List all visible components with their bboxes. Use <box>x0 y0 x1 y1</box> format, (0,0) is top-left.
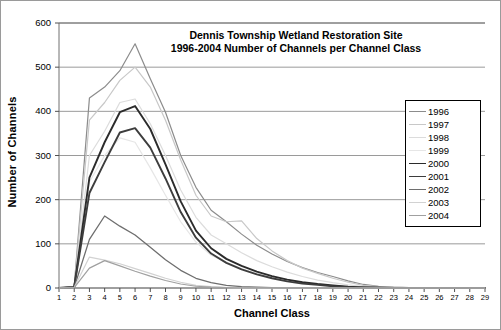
chart-container: Number of Channels Dennis Township Wetla… <box>0 0 501 330</box>
legend-label: 1999 <box>428 144 449 157</box>
legend-label: 1998 <box>428 131 449 144</box>
y-tick-label: 200 <box>17 194 51 205</box>
legend-label: 2003 <box>428 196 449 209</box>
y-tick-label: 300 <box>17 150 51 161</box>
legend-swatch-icon <box>409 202 426 203</box>
legend-item-2004[interactable]: 2004 <box>409 209 477 222</box>
legend-label: 2002 <box>428 183 449 196</box>
y-tick-label: 0 <box>17 282 51 293</box>
series-line-2003 <box>59 257 485 288</box>
legend-swatch-icon <box>409 111 426 112</box>
legend-swatch-icon <box>409 215 426 216</box>
legend-swatch-icon <box>409 150 426 151</box>
legend: 199619971998199920002001200220032004 <box>405 100 481 227</box>
y-tick-label: 600 <box>17 17 51 28</box>
legend-label: 1996 <box>428 105 449 118</box>
legend-item-1999[interactable]: 1999 <box>409 144 477 157</box>
legend-item-2001[interactable]: 2001 <box>409 170 477 183</box>
legend-item-2003[interactable]: 2003 <box>409 196 477 209</box>
legend-item-1997[interactable]: 1997 <box>409 118 477 131</box>
legend-label: 2001 <box>428 170 449 183</box>
legend-swatch-icon <box>409 176 426 177</box>
legend-item-1996[interactable]: 1996 <box>409 105 477 118</box>
legend-swatch-icon <box>409 189 426 190</box>
legend-item-2000[interactable]: 2000 <box>409 157 477 170</box>
legend-label: 2000 <box>428 157 449 170</box>
legend-label: 2004 <box>428 209 449 222</box>
y-tick-label: 100 <box>17 238 51 249</box>
y-tick-label: 400 <box>17 105 51 116</box>
legend-label: 1997 <box>428 118 449 131</box>
y-tick-label: 500 <box>17 61 51 72</box>
x-tick-label: 29 <box>476 293 494 302</box>
legend-item-1998[interactable]: 1998 <box>409 131 477 144</box>
x-axis-title: Channel Class <box>59 307 485 319</box>
legend-swatch-icon <box>409 124 426 125</box>
legend-swatch-icon <box>409 163 426 164</box>
legend-swatch-icon <box>409 137 426 138</box>
legend-item-2002[interactable]: 2002 <box>409 183 477 196</box>
